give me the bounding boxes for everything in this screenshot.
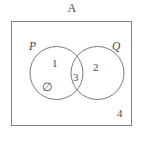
set-label-p: P xyxy=(29,41,36,52)
empty-set-symbol: ∅ xyxy=(42,82,52,93)
set-label-q: Q xyxy=(112,41,120,52)
universal-set-rectangle xyxy=(11,21,132,126)
figure-title: A xyxy=(0,1,144,15)
figure-caption xyxy=(0,139,144,144)
region-label-q-only: 2 xyxy=(93,62,99,73)
region-label-intersection: 3 xyxy=(73,72,79,83)
region-label-outside: 4 xyxy=(117,108,123,119)
region-label-p-only: 1 xyxy=(52,58,58,69)
venn-diagram-figure: A P Q 1 2 3 4 ∅ xyxy=(0,0,144,144)
